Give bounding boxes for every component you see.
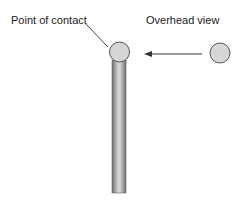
diagram-canvas xyxy=(0,0,246,203)
overhead-ball xyxy=(210,43,230,63)
arrow-left-icon xyxy=(144,51,202,57)
pole xyxy=(112,60,126,193)
contact-ball xyxy=(110,42,130,62)
point-of-contact-label: Point of contact xyxy=(11,14,87,26)
leader-line xyxy=(86,24,108,47)
overhead-view-label: Overhead view xyxy=(146,14,219,26)
